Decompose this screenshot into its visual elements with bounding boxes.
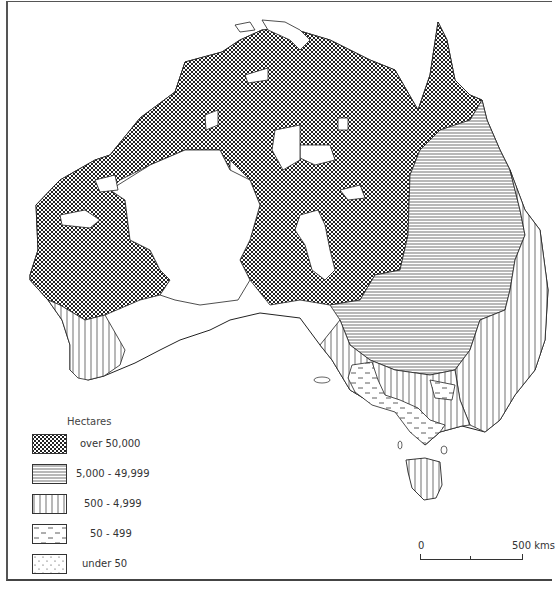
legend-item-under-50: under 50 (30, 554, 200, 576)
scale-start-label: 0 (418, 540, 424, 551)
legend-item-5000-49999: 5,000 - 49,999 (30, 464, 200, 486)
legend-title: Hectares (67, 416, 111, 427)
legend-label: 5,000 - 49,999 (76, 468, 150, 479)
legend-label: over 50,000 (80, 438, 140, 449)
horizontal-lines-swatch-icon (32, 464, 67, 484)
legend-label: under 50 (82, 558, 127, 569)
legend-item-50-499: 50 - 499 (30, 524, 200, 546)
legend-label: 50 - 499 (90, 528, 132, 539)
crosshatch-swatch-icon (32, 434, 67, 454)
dots-swatch-icon (32, 554, 67, 574)
legend-item-over-50000: over 50,000 (30, 434, 200, 456)
scale-bar-line (420, 554, 523, 560)
tasmania (406, 458, 442, 500)
legend-label: 500 - 4,999 (84, 498, 142, 509)
scale-end-label: 500 kms (512, 540, 555, 551)
vertical-lines-swatch-icon (32, 494, 67, 514)
dashes-swatch-icon (32, 524, 67, 544)
scale-midpoint-tick (470, 556, 471, 559)
legend-item-500-4999: 500 - 4,999 (30, 494, 200, 516)
scale-bar: 0 500 kms (418, 540, 548, 564)
